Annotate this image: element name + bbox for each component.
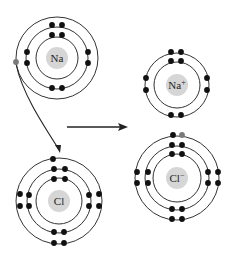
electron <box>59 32 65 38</box>
electron <box>169 142 175 148</box>
electron <box>168 58 174 64</box>
electron <box>169 216 175 222</box>
electron <box>26 203 32 209</box>
electron <box>17 203 23 209</box>
electron <box>49 32 55 38</box>
charge-superscript: + <box>181 78 186 87</box>
atom-cl: Cl <box>16 156 102 246</box>
electron <box>169 151 175 157</box>
electron <box>51 166 57 172</box>
electron <box>62 176 68 182</box>
electron <box>205 169 211 175</box>
electron <box>168 49 174 55</box>
electron <box>96 191 102 197</box>
electron <box>179 151 185 157</box>
electron <box>49 22 55 28</box>
electron <box>134 169 140 175</box>
electron <box>169 206 175 212</box>
electron <box>145 169 151 175</box>
electron <box>85 60 91 66</box>
electron <box>17 191 23 197</box>
electron <box>62 166 68 172</box>
electron <box>51 229 57 235</box>
electron <box>179 206 185 212</box>
electron <box>49 85 55 91</box>
transferred-electron <box>13 59 19 65</box>
electron <box>145 180 151 186</box>
electron <box>179 142 185 148</box>
ionic-bond-diagram: NaClNa+Cl− <box>0 0 233 261</box>
electron <box>205 180 211 186</box>
atom-cl-ion: Cl− <box>134 132 221 222</box>
nucleus-label: Cl <box>54 195 64 207</box>
electron <box>178 112 184 118</box>
electron <box>170 132 176 138</box>
electron <box>179 216 185 222</box>
electron <box>51 240 57 246</box>
electron <box>24 60 30 66</box>
electron <box>143 87 149 93</box>
electron <box>204 87 210 93</box>
electron <box>134 180 140 186</box>
electron <box>86 203 92 209</box>
electron <box>204 75 210 81</box>
electron <box>61 229 67 235</box>
electron <box>96 203 102 209</box>
electron-transfer-arrow <box>16 64 58 148</box>
electron <box>26 192 32 198</box>
electron <box>51 176 57 182</box>
electron <box>85 49 91 55</box>
diagram-svg: NaClNa+Cl− <box>0 0 233 261</box>
atom-na: Na <box>13 17 98 99</box>
electron <box>168 112 174 118</box>
electron <box>24 49 30 55</box>
transferred-electron <box>179 132 185 138</box>
electron <box>59 22 65 28</box>
charge-superscript: − <box>180 171 185 180</box>
electron-transfer-arrowhead-icon <box>55 145 61 153</box>
electron <box>178 58 184 64</box>
electron <box>215 169 221 175</box>
nucleus-label: Na <box>51 52 64 64</box>
electron <box>86 192 92 198</box>
electron <box>178 49 184 55</box>
electron <box>61 240 67 246</box>
electron <box>59 85 65 91</box>
electron <box>143 75 149 81</box>
electron <box>50 156 56 162</box>
atom-na-ion: Na+ <box>143 49 210 118</box>
atoms: NaClNa+Cl− <box>13 17 221 246</box>
electron <box>215 180 221 186</box>
